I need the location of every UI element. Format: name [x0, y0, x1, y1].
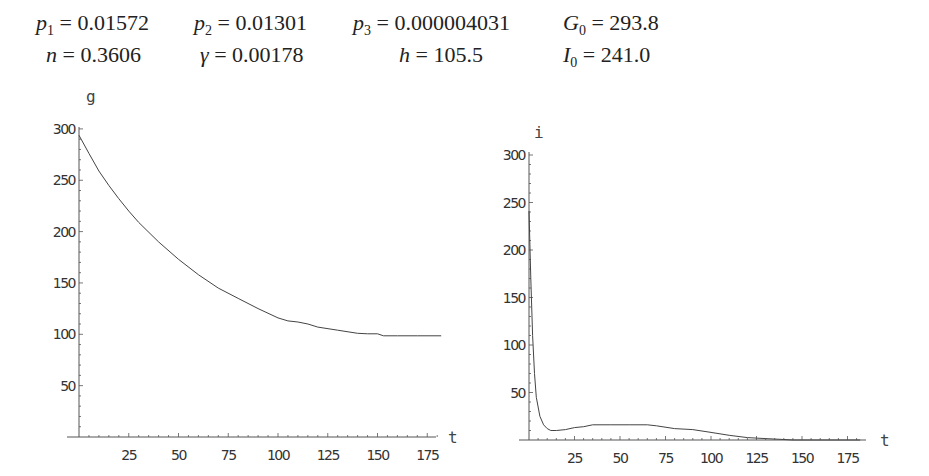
- x-tick-label: 125: [317, 447, 340, 463]
- x-tick-label: 75: [221, 447, 236, 463]
- y-axis-label: g: [86, 87, 96, 106]
- y-tick-label: 100: [503, 337, 526, 353]
- series-line-g: [79, 135, 441, 335]
- x-tick-label: 150: [791, 450, 814, 466]
- insulin-chart: 25507510012515017550100150200250300ti: [503, 123, 890, 466]
- series-line-i: [529, 211, 860, 440]
- x-tick-label: 150: [366, 447, 389, 463]
- y-tick-label: 150: [503, 290, 526, 306]
- x-tick-label: 50: [613, 450, 628, 466]
- glucose-chart: 25507510012515017550100150200250300tg: [53, 87, 458, 463]
- y-tick-label: 50: [60, 378, 75, 394]
- x-axis-label: t: [880, 431, 890, 450]
- y-tick-label: 150: [53, 275, 76, 291]
- y-tick-label: 200: [53, 224, 76, 240]
- x-tick-label: 50: [171, 447, 186, 463]
- x-tick-label: 25: [567, 450, 582, 466]
- x-tick-label: 100: [700, 450, 723, 466]
- x-tick-label: 75: [658, 450, 673, 466]
- y-tick-label: 300: [503, 147, 526, 163]
- y-tick-label: 250: [53, 172, 76, 188]
- charts-canvas: 25507510012515017550100150200250300tg 25…: [0, 0, 929, 476]
- x-tick-label: 25: [121, 447, 136, 463]
- y-tick-label: 300: [53, 121, 76, 137]
- x-tick-label: 100: [267, 447, 290, 463]
- y-tick-label: 100: [53, 326, 76, 342]
- x-axis-label: t: [448, 428, 458, 447]
- y-tick-label: 200: [503, 242, 526, 258]
- x-tick-label: 175: [416, 447, 439, 463]
- x-tick-label: 175: [836, 450, 859, 466]
- y-tick-label: 250: [503, 195, 526, 211]
- x-tick-label: 125: [745, 450, 768, 466]
- y-tick-label: 50: [510, 385, 525, 401]
- y-axis-label: i: [534, 123, 544, 142]
